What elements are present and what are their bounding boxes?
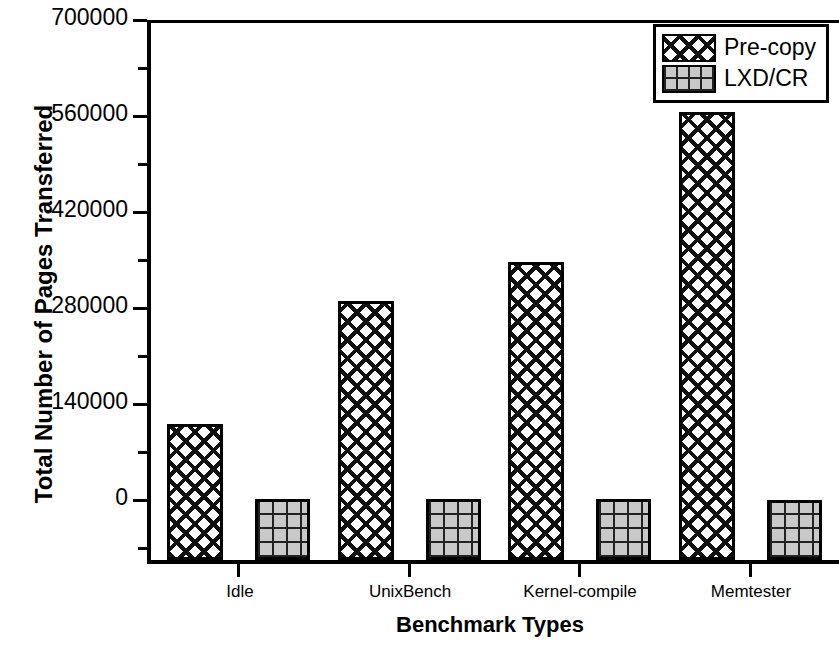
y-tick-minor-210000 (138, 355, 147, 358)
y-tick-label-420000: 420000 (51, 198, 128, 221)
x-tick-idle (237, 564, 240, 577)
bar-lxdcr-unixbench[interactable] (426, 499, 481, 560)
y-tick-label-560000: 560000 (51, 102, 128, 125)
y-tick-minor-bottom (138, 547, 147, 550)
legend-item-lxdcr[interactable]: LXD/CR (662, 63, 820, 94)
x-tick-kernel-compile (578, 564, 581, 577)
y-tick-label-700000: 700000 (51, 6, 128, 29)
legend-label-lxdcr: LXD/CR (724, 65, 808, 92)
y-tick-0 (133, 499, 147, 502)
x-axis-title: Benchmark Types (140, 612, 839, 638)
x-axis-line (147, 560, 839, 564)
legend-item-precopy[interactable]: Pre-copy (662, 32, 820, 63)
y-tick-minor-490000 (138, 163, 147, 166)
bar-chart: Total Number of Pages Transferred 700000… (0, 0, 839, 648)
bar-precopy-idle[interactable] (167, 424, 223, 560)
legend-swatch-precopy-icon (662, 34, 716, 62)
bar-precopy-kernel-compile[interactable] (508, 262, 564, 560)
bar-precopy-unixbench[interactable] (338, 301, 394, 560)
y-tick-420000 (133, 211, 147, 214)
y-tick-700000 (133, 19, 147, 22)
bar-lxdcr-memtester[interactable] (767, 500, 822, 560)
y-tick-minor-630000 (138, 67, 147, 70)
legend-label-precopy: Pre-copy (724, 34, 816, 61)
y-tick-label-280000: 280000 (51, 294, 128, 317)
x-tick-label-idle: Idle (160, 582, 320, 602)
y-tick-minor-350000 (138, 259, 147, 262)
legend-swatch-lxdcr-icon (662, 65, 716, 93)
y-tick-280000 (133, 307, 147, 310)
y-tick-label-0: 0 (115, 486, 128, 509)
bar-lxdcr-kernel-compile[interactable] (596, 499, 651, 560)
bar-lxdcr-idle[interactable] (255, 499, 310, 560)
x-tick-label-unixbench: UnixBench (330, 582, 490, 602)
x-tick-label-memtester: Memtester (671, 582, 831, 602)
bar-precopy-memtester[interactable] (679, 112, 735, 560)
y-tick-minor-70000 (138, 451, 147, 454)
x-tick-unixbench (408, 564, 411, 577)
legend: Pre-copy LXD/CR (653, 24, 829, 103)
y-tick-140000 (133, 403, 147, 406)
x-tick-label-kernel-compile: Kernel-compile (500, 582, 660, 602)
y-tick-560000 (133, 115, 147, 118)
y-tick-label-140000: 140000 (51, 390, 128, 413)
x-tick-memtester (749, 564, 752, 577)
